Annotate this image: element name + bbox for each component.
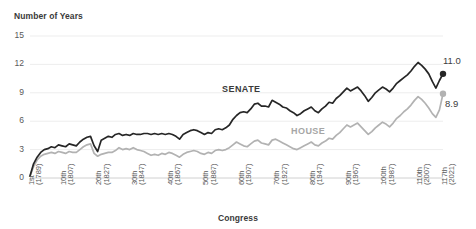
endpoint-marker-senate xyxy=(440,71,446,77)
congress-tenure-line-chart: Number of Years 03691215 1st(1789)10th(1… xyxy=(0,0,476,229)
y-tick-0: 0 xyxy=(2,172,24,182)
x-tick-year-20th: (1827) xyxy=(102,164,111,185)
y-tick-15: 15 xyxy=(2,30,24,40)
y-tick-3: 3 xyxy=(2,144,24,154)
x-tick-year-40th: (1867) xyxy=(173,164,182,185)
endpoint-value-senate: 11.0 xyxy=(443,55,461,66)
x-tick-year-50th: (1887) xyxy=(209,164,218,185)
x-tick-year-117th: (2021) xyxy=(447,164,456,185)
endpoint-markers xyxy=(440,71,446,97)
x-axis-title: Congress xyxy=(0,213,476,223)
x-tick-year-60th: (1907) xyxy=(244,164,253,185)
line-senate xyxy=(30,63,443,177)
endpoint-value-house: 8.9 xyxy=(445,98,458,109)
x-tick-year-1st: (1789) xyxy=(34,164,43,185)
data-series-lines xyxy=(30,63,443,177)
endpoint-marker-house xyxy=(440,91,446,97)
x-tick-year-80th: (1947) xyxy=(315,164,324,185)
x-tick-year-110th: (2007) xyxy=(422,164,431,185)
y-tick-12: 12 xyxy=(2,58,24,68)
line-house xyxy=(30,94,443,176)
y-tick-9: 9 xyxy=(2,87,24,97)
x-tick-year-90th: (1967) xyxy=(351,164,360,185)
x-tick-year-10th: (1807) xyxy=(66,164,75,185)
series-label-senate: SENATE xyxy=(222,84,261,94)
x-tick-year-70th: (1927) xyxy=(280,164,289,185)
x-tick-year-30th: (1847) xyxy=(137,164,146,185)
x-tick-year-100th: (1987) xyxy=(387,164,396,185)
plot-area xyxy=(0,0,476,229)
series-label-house: HOUSE xyxy=(291,126,325,136)
y-tick-6: 6 xyxy=(2,115,24,125)
